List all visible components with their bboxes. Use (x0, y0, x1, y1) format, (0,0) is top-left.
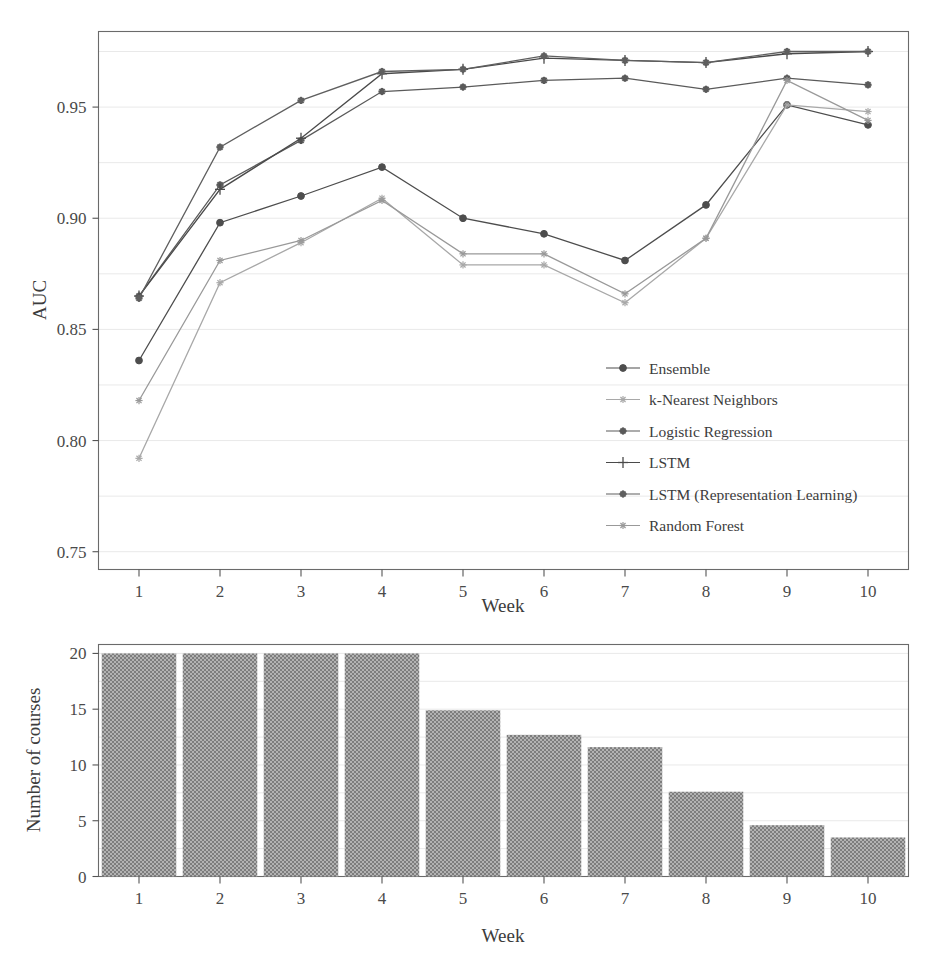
x-tick-label: 1 (135, 889, 144, 908)
data-point-dark-star (621, 57, 628, 64)
bar (507, 735, 582, 877)
y-tick-label: 0.85 (57, 320, 87, 339)
y-tick-label: 0.90 (57, 209, 87, 228)
x-tick-label: 2 (216, 889, 225, 908)
x-tick-label: 9 (783, 889, 792, 908)
y-tick-label: 0.75 (57, 543, 87, 562)
x-tick-label: 1 (135, 582, 144, 601)
bar (426, 710, 501, 876)
x-tick-label: 8 (702, 582, 711, 601)
data-point-filled-circle (460, 215, 467, 222)
data-point-light-asterisk (459, 250, 466, 257)
x-tick-label: 3 (297, 889, 306, 908)
data-point-light-star (459, 261, 466, 268)
data-point-plus (618, 457, 628, 468)
legend-item-random-forest[interactable]: Random Forest (606, 517, 745, 534)
legend-item-k-nearest-neighbors[interactable]: k-Nearest Neighbors (606, 391, 778, 408)
y-tick-label: 20 (70, 644, 87, 663)
bar (831, 837, 906, 876)
legend-label: k-Nearest Neighbors (649, 391, 778, 408)
data-point-filled-circle (379, 164, 386, 171)
data-point-dark-star (619, 490, 626, 497)
data-point-light-asterisk (864, 117, 871, 124)
course-count-bar-panel: 05101520 12345678910 Number of courses W… (0, 629, 935, 959)
series-polyline (139, 105, 868, 361)
data-point-filled-circle (136, 357, 143, 364)
y-tick-label: 5 (78, 812, 87, 831)
bar (750, 825, 825, 876)
bar (669, 792, 744, 877)
legend-item-ensemble[interactable]: Ensemble (606, 360, 710, 377)
x-tick-label: 10 (860, 582, 877, 601)
y-tick-label: 0.80 (57, 432, 87, 451)
legend-item-logistic-regression[interactable]: Logistic Regression (606, 423, 773, 440)
x-tick-label: 9 (783, 582, 792, 601)
data-point-dark-star (297, 97, 304, 104)
data-point-filled-circle (703, 202, 710, 209)
data-point-filled-circle (620, 365, 627, 372)
data-point-light-star (621, 299, 628, 306)
data-point-filled-circle (298, 193, 305, 200)
x-tick-label: 5 (459, 582, 468, 601)
bar (183, 653, 258, 876)
data-point-dark-star (540, 77, 547, 84)
data-point-dark-star (864, 81, 871, 88)
x-tick-label: 2 (216, 582, 225, 601)
y-tick-label: 0 (78, 868, 87, 887)
data-point-dark-star (702, 86, 709, 93)
legend-item-lstm-representation-learning[interactable]: LSTM (Representation Learning) (606, 486, 857, 504)
x-tick-label: 6 (540, 889, 549, 908)
y-tick-label: 10 (70, 756, 87, 775)
line-gridlines (99, 52, 909, 552)
series-logistic-regression (135, 75, 871, 300)
courses-x-axis-title: Week (482, 925, 525, 946)
data-point-light-star (619, 396, 626, 403)
data-point-light-star (783, 101, 790, 108)
legend-item-lstm[interactable]: LSTM (606, 454, 691, 471)
data-point-light-star (216, 279, 223, 286)
courses-y-axis-title: Number of courses (23, 688, 44, 833)
data-point-dark-star (702, 59, 709, 66)
data-point-dark-star (459, 66, 466, 73)
data-point-light-asterisk (621, 290, 628, 297)
x-tick-label: 4 (378, 582, 387, 601)
auc-line-panel: 0.750.800.850.900.95 12345678910 AUC Wee… (0, 0, 935, 630)
data-point-light-star (864, 108, 871, 115)
legend-label: Ensemble (649, 360, 710, 377)
series-lstm-representation-learning (135, 48, 871, 302)
x-tick-label: 7 (621, 889, 630, 908)
bar (264, 653, 339, 876)
legend-label: Random Forest (649, 517, 745, 534)
x-tick-label: 8 (702, 889, 711, 908)
x-tick-label: 6 (540, 582, 549, 601)
legend-label: Logistic Regression (649, 423, 773, 440)
data-point-dark-star (135, 295, 142, 302)
legend: Ensemblek-Nearest NeighborsLogistic Regr… (606, 360, 857, 535)
bar-y-axis-ticks: 05101520 (70, 644, 99, 886)
data-point-light-asterisk (297, 237, 304, 244)
data-point-light-asterisk (702, 235, 709, 242)
series-ensemble (136, 101, 872, 363)
auc-x-axis-title: Week (482, 595, 525, 616)
line-y-axis-ticks: 0.750.800.850.900.95 (57, 98, 99, 562)
data-point-dark-star (621, 75, 628, 82)
x-tick-label: 5 (459, 889, 468, 908)
data-point-dark-star (540, 52, 547, 59)
series-random-forest (135, 77, 871, 404)
data-point-light-asterisk (135, 397, 142, 404)
data-point-light-asterisk (378, 197, 385, 204)
data-point-dark-star (459, 83, 466, 90)
data-point-light-asterisk (216, 257, 223, 264)
y-tick-label: 15 (70, 700, 87, 719)
x-tick-label: 4 (378, 889, 387, 908)
auc-y-axis-title: AUC (29, 280, 50, 320)
series-polyline (139, 52, 868, 297)
data-point-dark-star (619, 427, 626, 434)
legend-label: LSTM (649, 454, 691, 471)
data-point-dark-star (783, 48, 790, 55)
x-tick-label: 3 (297, 582, 306, 601)
data-point-light-asterisk (783, 77, 790, 84)
bar (588, 747, 663, 876)
x-tick-label: 10 (860, 889, 877, 908)
data-point-filled-circle (622, 257, 629, 264)
